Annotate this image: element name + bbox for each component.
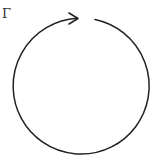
contour-arc [13, 18, 149, 154]
contour-diagram [0, 0, 155, 166]
